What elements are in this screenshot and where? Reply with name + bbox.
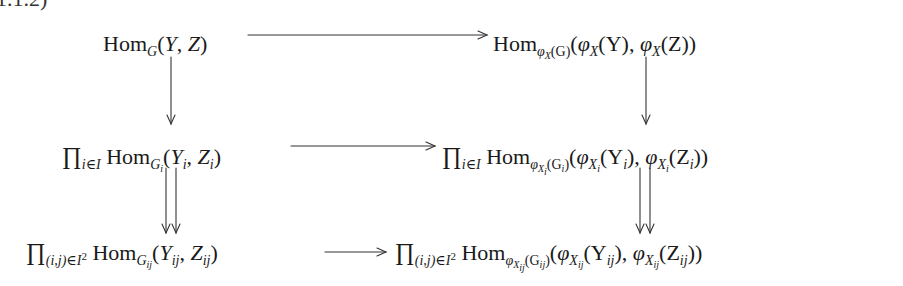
- double-arrow-down-icon: [636, 168, 654, 233]
- node-hom-phi-x: HomφX(G)(φX(Y), φX(Z)): [493, 33, 696, 56]
- arrow-right-icon: [248, 31, 487, 39]
- arrow-right-icon: [325, 248, 386, 256]
- arrow-down-icon: [167, 57, 175, 124]
- node-prod-hom-phi-xij: ∏(i,j)∈I2 HomφXij(Gij)(φXij(Yij), φXij(Z…: [395, 240, 702, 268]
- arrow-right-icon: [291, 142, 435, 150]
- node-hom-g-y-z: HomG(Y, Z): [103, 33, 207, 55]
- node-prod-hom-gij: ∏(i,j)∈I2 HomGij(Yij, Zij): [26, 240, 218, 265]
- double-arrow-down-icon: [162, 168, 180, 233]
- arrow-down-icon: [642, 57, 650, 124]
- equation-label: 1.1.2): [0, 0, 47, 12]
- node-prod-hom-phi-xi: ∏i∈I HomφXi(Gi)(φXi(Yi), φXi(Zi)): [442, 144, 708, 172]
- node-prod-hom-gi: ∏i∈I HomGi(Yi, Zi): [62, 144, 221, 169]
